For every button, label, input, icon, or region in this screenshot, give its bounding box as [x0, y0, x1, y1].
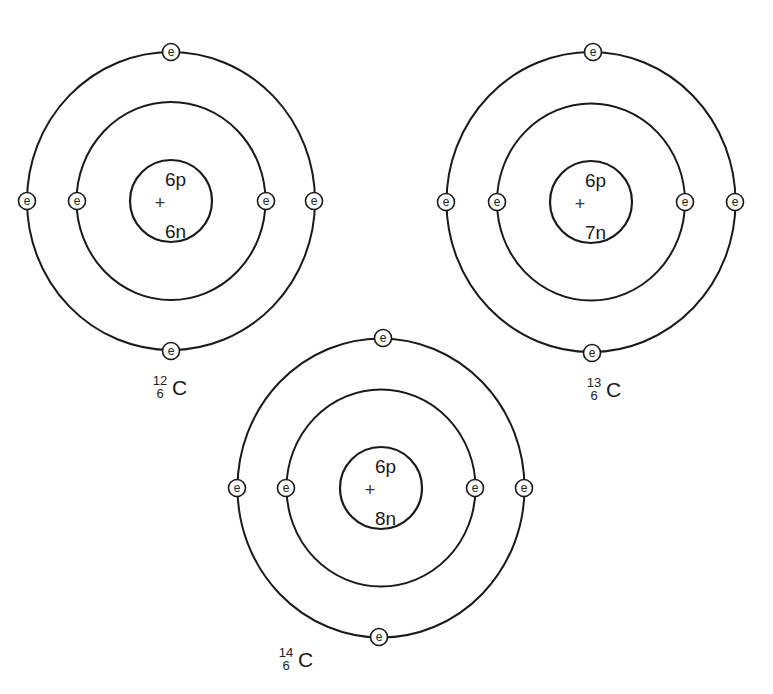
electron-outer-shell: e — [163, 44, 180, 61]
proton-count: 6p — [165, 169, 186, 190]
electron-label: e — [376, 630, 383, 644]
electron-outer-shell: e — [585, 44, 602, 61]
proton-count: 6p — [375, 456, 396, 477]
electron-outer-shell: e — [19, 193, 36, 210]
electron-label: e — [24, 194, 31, 208]
atomic-number: 6 — [590, 388, 597, 403]
electron-outer-shell: e — [306, 193, 323, 210]
electron-label: e — [168, 45, 175, 59]
electron-inner-shell: e — [258, 193, 275, 210]
element-symbol: C — [172, 376, 187, 399]
atomic-number: 6 — [156, 386, 163, 401]
electron-outer-shell: e — [727, 194, 744, 211]
positive-charge-icon: + — [365, 480, 376, 500]
carbon-isotopes-diagram: 6p+6neeeeee126C6p+7neeeeee136C6p+8neeeee… — [0, 0, 773, 694]
element-symbol: C — [298, 648, 313, 671]
electron-inner-shell: e — [489, 194, 506, 211]
electron-label: e — [168, 344, 175, 358]
electron-label: e — [311, 194, 318, 208]
neutron-count: 7n — [585, 222, 606, 243]
electron-inner-shell: e — [677, 194, 694, 211]
electron-outer-shell: e — [371, 629, 388, 646]
electron-label: e — [494, 195, 501, 209]
electron-label: e — [283, 481, 290, 495]
electron-inner-shell: e — [278, 480, 295, 497]
electron-label: e — [589, 346, 596, 360]
electron-label: e — [682, 195, 689, 209]
element-symbol: C — [606, 378, 621, 401]
electron-label: e — [234, 481, 241, 495]
background — [0, 0, 773, 694]
positive-charge-icon: + — [155, 193, 166, 213]
electron-outer-shell: e — [375, 330, 392, 347]
electron-label: e — [732, 195, 739, 209]
electron-inner-shell: e — [467, 480, 484, 497]
electron-inner-shell: e — [69, 193, 86, 210]
electron-label: e — [263, 194, 270, 208]
electron-label: e — [443, 195, 450, 209]
electron-label: e — [590, 45, 597, 59]
neutron-count: 8n — [375, 508, 396, 529]
electron-label: e — [521, 481, 528, 495]
proton-count: 6p — [585, 170, 606, 191]
electron-label: e — [74, 194, 81, 208]
electron-label: e — [380, 331, 387, 345]
electron-label: e — [472, 481, 479, 495]
electron-outer-shell: e — [584, 345, 601, 362]
neutron-count: 6n — [165, 221, 186, 242]
atomic-number: 6 — [282, 658, 289, 673]
electron-outer-shell: e — [163, 343, 180, 360]
electron-outer-shell: e — [516, 480, 533, 497]
positive-charge-icon: + — [575, 194, 586, 214]
electron-outer-shell: e — [438, 194, 455, 211]
electron-outer-shell: e — [229, 480, 246, 497]
